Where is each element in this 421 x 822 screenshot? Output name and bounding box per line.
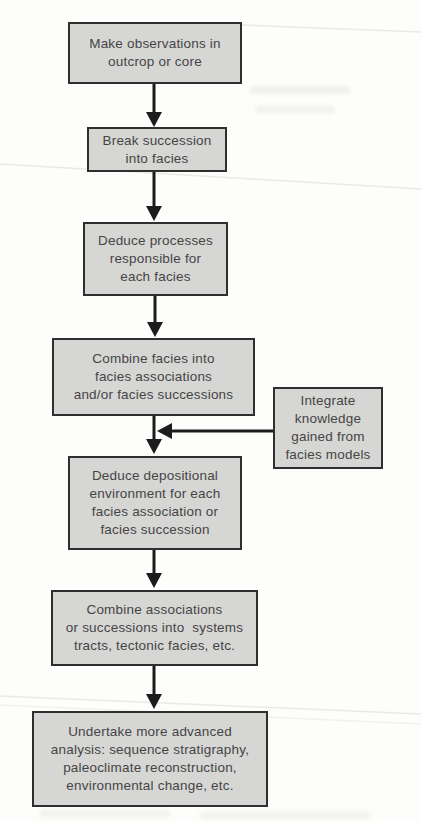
- arrow-environment-to-associations: [146, 549, 162, 588]
- flow-box-observe: Make observations in outcrop or core: [68, 22, 242, 84]
- scan-line: [242, 25, 421, 32]
- flow-box-combine-associations: Combine associations or successions into…: [51, 590, 258, 666]
- flow-box-integrate-knowledge: Integrate knowledge gained from facies m…: [273, 387, 383, 469]
- arrow-processes-to-combine: [147, 295, 163, 337]
- flow-box-undertake-analysis: Undertake more advanced analysis: sequen…: [32, 711, 268, 807]
- arrow-break-to-processes: [146, 171, 162, 221]
- arrow-integrate-to-junction: [157, 423, 274, 439]
- flowchart-page: Make observations in outcrop or core Bre…: [0, 0, 421, 822]
- arrow-observe-to-break: [146, 84, 162, 127]
- arrow-combine-to-environment: [146, 415, 162, 454]
- flow-box-deduce-environment: Deduce depositional environment for each…: [68, 456, 242, 550]
- flow-box-deduce-processes: Deduce processes responsible for each fa…: [83, 222, 228, 296]
- flow-box-break-succession: Break succession into facies: [87, 127, 227, 172]
- flow-box-combine-facies: Combine facies into facies associations …: [52, 338, 255, 416]
